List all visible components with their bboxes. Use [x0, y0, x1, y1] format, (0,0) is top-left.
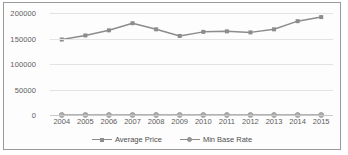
- x-axis-tick-label: 2004: [53, 117, 70, 126]
- data-point-square: [131, 21, 135, 25]
- x-axis-tick-label: 2011: [219, 117, 235, 126]
- y-axis-tick-label: 50000: [0, 85, 36, 94]
- data-point-square: [154, 27, 158, 31]
- legend-item-average-price[interactable]: Average Price: [92, 135, 162, 144]
- x-axis-tick-label: 2010: [195, 117, 212, 126]
- x-axis-tick-label: 2013: [266, 117, 283, 126]
- plot-area: 050000100000150000200000: [50, 13, 333, 115]
- legend-item-min-base-rate[interactable]: Min Base Rate: [180, 135, 252, 144]
- legend-label: Average Price: [115, 135, 162, 144]
- x-axis-tick-label: 2007: [124, 117, 141, 126]
- y-axis-tick-label: 150000: [0, 34, 36, 43]
- chart-legend: Average Price Min Base Rate: [4, 135, 340, 144]
- axis-baseline: [50, 115, 333, 116]
- gridline: [50, 13, 333, 14]
- x-axis-tick-label: 2005: [77, 117, 94, 126]
- data-point-square: [248, 30, 252, 34]
- y-axis-tick-label: 0: [0, 111, 36, 120]
- data-point-square: [178, 34, 182, 38]
- data-point-square: [83, 33, 87, 37]
- data-point-square: [296, 19, 300, 23]
- square-marker-icon: [92, 136, 112, 143]
- series-line: [62, 17, 321, 39]
- y-axis-tick-label: 200000: [0, 9, 36, 18]
- gridline: [50, 90, 333, 91]
- x-axis-tick-label: 2014: [289, 117, 306, 126]
- gridline: [50, 64, 333, 65]
- data-point-square: [272, 27, 276, 31]
- data-point-square: [225, 29, 229, 33]
- x-axis-tick-label: 2012: [242, 117, 259, 126]
- circle-marker-icon: [180, 136, 200, 143]
- data-point-square: [201, 30, 205, 34]
- chart-container: 050000100000150000200000 200420052006200…: [3, 2, 341, 150]
- x-axis-tick-label: 2008: [148, 117, 165, 126]
- legend-label: Min Base Rate: [203, 135, 252, 144]
- data-point-square: [107, 28, 111, 32]
- y-axis-tick-label: 100000: [0, 60, 36, 69]
- gridline: [50, 39, 333, 40]
- x-axis-tick-label: 2015: [313, 117, 330, 126]
- x-axis-tick-label: 2006: [101, 117, 118, 126]
- data-point-square: [319, 15, 323, 19]
- x-axis-tick-label: 2009: [171, 117, 188, 126]
